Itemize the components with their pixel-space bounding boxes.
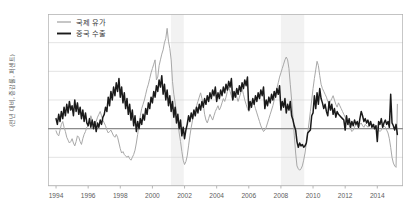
x-tick-label: 2014 [370, 192, 385, 199]
chart-figure: (전년 대비, 증감률, 퍼센트) 16012080400−40−8019941… [0, 0, 418, 221]
series-line [56, 76, 397, 148]
x-tick-label: 2000 [145, 192, 160, 199]
chart-legend: 국제 유가중국 수출 [57, 18, 106, 39]
x-tick-label: 2012 [338, 192, 353, 199]
legend-label: 국제 유가 [76, 18, 106, 27]
x-tick-label: 1996 [81, 192, 96, 199]
x-tick-label: 2010 [306, 192, 321, 199]
y-axis-label-text: (전년 대비, 증감률, 퍼센트) [7, 54, 16, 127]
plot-area-wrapper: 16012080400−40−8019941996199820002002200… [48, 14, 403, 186]
line-chart-svg: 16012080400−40−8019941996199820002002200… [48, 14, 403, 221]
series-line [56, 28, 397, 170]
x-tick-label: 2004 [209, 192, 224, 199]
series-group [56, 28, 397, 170]
legend-label: 중국 수출 [76, 29, 106, 38]
x-tick-label: 1998 [113, 192, 128, 199]
x-tick-label: 2006 [241, 192, 256, 199]
x-tick-label: 2002 [177, 192, 192, 199]
x-tick-label: 2008 [274, 192, 289, 199]
y-axis-label: (전년 대비, 증감률, 퍼센트) [0, 0, 22, 180]
x-tick-label: 1994 [49, 192, 64, 199]
